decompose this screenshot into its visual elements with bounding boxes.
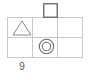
grid-line-vertical-2 (32, 17, 33, 58)
double-circle-shape (38, 38, 55, 55)
triangle-icon (12, 20, 32, 36)
figure-container: 9 (0, 0, 89, 80)
double-circle-icon (38, 38, 55, 55)
grid-line-vertical-1 (7, 17, 8, 58)
square-shape (43, 3, 58, 18)
figure-caption: 9 (14, 61, 30, 73)
grid-line-vertical-4 (82, 17, 83, 58)
grid-line-horizontal-bottom (7, 57, 82, 58)
triangle-shape (12, 20, 32, 36)
square-icon (43, 3, 58, 18)
grid-line-vertical-3 (57, 17, 58, 58)
